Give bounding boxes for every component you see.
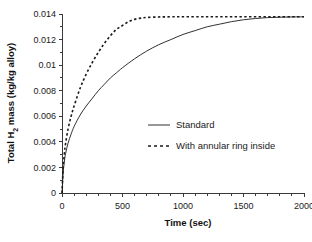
legend-label: Standard (176, 119, 215, 130)
series-standard (62, 17, 304, 193)
legend-label: With annular ring inside (176, 140, 275, 151)
x-tick-label: 1000 (173, 201, 193, 211)
y-tick-label: 0 (51, 188, 56, 198)
x-tick-label-group: 0500100015002000 (59, 201, 312, 211)
y-tick-label: 0.002 (33, 163, 56, 173)
x-tick-label: 1500 (233, 201, 253, 211)
y-tick-label: 0.004 (33, 137, 56, 147)
series-group (62, 17, 304, 193)
y-axis-title-pre: Total H (5, 132, 16, 164)
x-axis-title-label: Time (sec) (165, 217, 212, 228)
y-tick-label: 0.006 (33, 111, 56, 121)
y-tick-label: 0.012 (33, 35, 56, 45)
y-axis-title-post: mass (kg/kg alloy) (5, 43, 16, 128)
y-tick-label: 0.008 (33, 86, 56, 96)
series-with-annular-ring-inside (62, 17, 304, 193)
x-axis-title: Time (sec) (165, 217, 212, 228)
y-tick-label: 0.014 (33, 9, 56, 19)
svg-text:Total H2 mass (kg/kg alloy): Total H2 mass (kg/kg alloy) (5, 43, 19, 163)
line-chart: Total H2 mass (kg/kg alloy) 00.0020.0040… (0, 0, 312, 242)
figure-container: Total H2 mass (kg/kg alloy) 00.0020.0040… (0, 0, 312, 242)
y-tick-label-group: 00.0020.0040.0060.0080.010.0120.014 (33, 9, 56, 198)
axes-group (59, 14, 304, 197)
x-tick-label: 2000 (294, 201, 312, 211)
chart-legend: StandardWith annular ring inside (148, 119, 275, 151)
x-tick-label: 500 (115, 201, 130, 211)
y-axis-title: Total H2 mass (kg/kg alloy) (5, 43, 19, 163)
y-tick-label: 0.01 (38, 60, 56, 70)
x-tick-label: 0 (59, 201, 64, 211)
